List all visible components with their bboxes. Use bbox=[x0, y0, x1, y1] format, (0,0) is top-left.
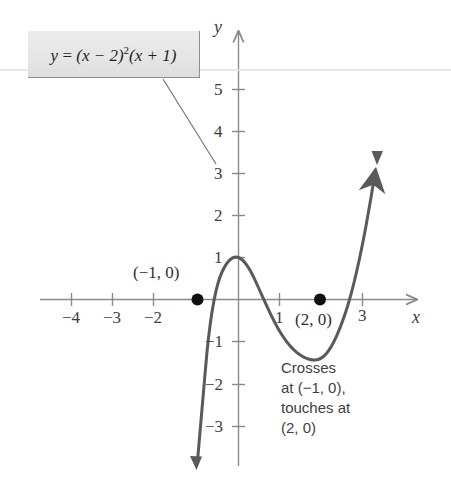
y-tick-label-5: 5 bbox=[214, 81, 223, 98]
x-axis-label: x bbox=[412, 308, 420, 326]
point-crossing-marker bbox=[192, 294, 204, 306]
equation-text: y = (x − 2)2(x + 1) bbox=[28, 44, 199, 66]
graph-figure: y = (x − 2)2(x + 1) y x −4 −3 −2 1 3 5 4… bbox=[0, 0, 451, 490]
x-tick-label--4: −4 bbox=[62, 309, 80, 326]
callout-leader-line bbox=[163, 79, 216, 164]
equation-body: (x − 2) bbox=[76, 46, 123, 65]
curve-arrow-up bbox=[372, 151, 384, 165]
y-tick-label-3: 3 bbox=[214, 165, 223, 182]
equation-equals: = bbox=[62, 46, 72, 65]
y-tick-label--1: −1 bbox=[205, 333, 223, 350]
note-line-3: touches at bbox=[281, 398, 401, 418]
point-touching-marker bbox=[314, 294, 326, 306]
y-tick-label-2: 2 bbox=[214, 207, 223, 224]
description-note: Crosses at (−1, 0), touches at (2, 0) bbox=[281, 358, 401, 438]
y-axis-label: y bbox=[214, 18, 222, 36]
curve-arrow-down bbox=[190, 456, 202, 470]
equation-callout-box: y = (x − 2)2(x + 1) bbox=[28, 31, 200, 78]
equation-tail: (x + 1) bbox=[129, 46, 176, 65]
point-label-touching: (2, 0) bbox=[295, 311, 332, 328]
y-tick-label-4: 4 bbox=[214, 123, 223, 140]
note-line-1: Crosses bbox=[281, 358, 401, 378]
x-tick-label-3: 3 bbox=[358, 307, 367, 324]
x-tick-label-1: 1 bbox=[275, 309, 284, 326]
note-line-4: (2, 0) bbox=[281, 418, 401, 438]
equation-lhs: y bbox=[51, 46, 59, 65]
x-tick-label--3: −3 bbox=[103, 309, 121, 326]
y-tick-label--3: −3 bbox=[205, 418, 223, 435]
note-line-2: at (−1, 0), bbox=[281, 378, 401, 398]
point-label-crossing: (−1, 0) bbox=[133, 264, 179, 281]
y-tick-label-1: 1 bbox=[214, 249, 223, 266]
x-tick-label--2: −2 bbox=[144, 309, 162, 326]
y-tick-label--2: −2 bbox=[205, 376, 223, 393]
